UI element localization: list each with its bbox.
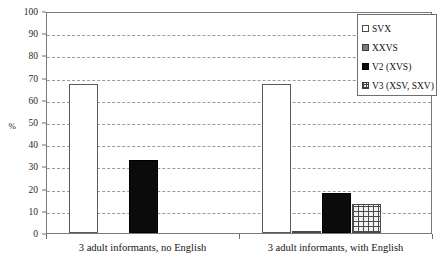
y-tick-label-30: 30 [29, 162, 39, 172]
y-tick-label-60: 60 [29, 96, 39, 106]
x-label-1: 3 adult informants, no English [46, 241, 239, 255]
legend-item-label: V2 (XVS) [372, 62, 411, 72]
y-tick-label-50: 50 [29, 118, 39, 128]
x-axis-tick-2 [432, 234, 433, 239]
bar-v2-xvs--group-1 [129, 160, 158, 233]
y-tick-label-70: 70 [29, 74, 39, 84]
y-tick-label-90: 90 [29, 29, 39, 39]
x-axis-category-labels: 3 adult informants, no English3 adult in… [46, 241, 432, 259]
legend-swatch-icon [362, 63, 369, 70]
y-tick-label-10: 10 [29, 207, 39, 217]
y-tick-label-100: 100 [24, 7, 38, 17]
legend-item-xxvs[interactable]: XXVS [362, 38, 433, 57]
y-tick-label-0: 0 [33, 229, 38, 239]
y-tick-label-80: 80 [29, 51, 39, 61]
legend-item-label: SVX [372, 24, 391, 34]
legend-item-label: XXVS [372, 43, 398, 53]
legend: SVXXXVSV2 (XVS)V3 (XSV, SXV) [357, 14, 437, 96]
legend-item-label: V3 (XSV, SXV) [372, 81, 434, 91]
x-label-2: 3 adult informants, with English [239, 241, 432, 255]
legend-item-svx[interactable]: SVX [362, 19, 433, 38]
bar-group-1 [47, 13, 240, 233]
legend-swatch-icon [362, 82, 369, 89]
bar-svx-group-2 [262, 84, 291, 233]
bar-xxvs-group-2 [292, 231, 321, 233]
y-tick-label-20: 20 [29, 185, 39, 195]
x-axis-tick-origin [46, 234, 47, 239]
y-axis-tick-labels: 0102030405060708090100 [14, 12, 42, 234]
legend-swatch-icon [362, 25, 369, 32]
legend-swatch-icon [362, 44, 369, 51]
bar-chart: % 0102030405060708090100 3 adult informa… [0, 0, 441, 272]
bar-v2-xvs--group-2 [322, 193, 351, 233]
y-tick-label-40: 40 [29, 140, 39, 150]
legend-item-v2-xvs-[interactable]: V2 (XVS) [362, 57, 433, 76]
bar-v3-xsv-sxv--group-2 [352, 204, 381, 233]
legend-item-v3-xsv-sxv-[interactable]: V3 (XSV, SXV) [362, 76, 433, 95]
x-axis-tick-1 [239, 234, 240, 239]
bar-svx-group-1 [69, 84, 98, 233]
